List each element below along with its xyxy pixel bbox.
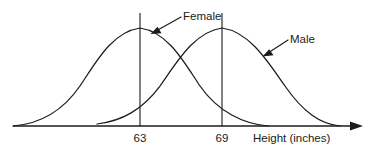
male-leader-line bbox=[268, 40, 288, 53]
female-arrowhead-icon bbox=[151, 27, 162, 34]
x-axis-right-arrowhead-icon bbox=[350, 122, 363, 131]
x-tick-label-63: 63 bbox=[134, 132, 147, 144]
female-series-label: Female bbox=[183, 10, 221, 22]
female-leader-line bbox=[156, 17, 181, 31]
x-axis-title: Height (inches) bbox=[253, 132, 331, 144]
male-series-label: Male bbox=[290, 33, 315, 45]
height-distribution-figure: Female Male 63 69 Height (inches) bbox=[0, 0, 370, 153]
distribution-chart-canvas: Female Male 63 69 Height (inches) bbox=[0, 0, 370, 153]
x-tick-label-69: 69 bbox=[216, 132, 229, 144]
